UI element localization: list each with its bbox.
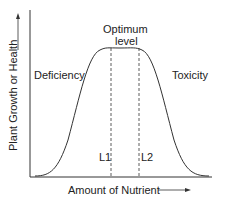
deficiency-label: Deficiency <box>34 69 85 81</box>
response-curve <box>35 48 209 176</box>
x-arrow-icon <box>158 188 191 192</box>
y-axis-label: Plant Growth or Health <box>7 41 19 151</box>
x-axis-label: Amount of Nutrient <box>68 184 160 196</box>
peak-label-line1: Optimum <box>103 23 148 35</box>
l1-label: L1 <box>99 151 111 163</box>
toxicity-label: Toxicity <box>172 69 208 81</box>
peak-label-line2: level <box>115 35 138 47</box>
l2-label: L2 <box>141 151 153 163</box>
